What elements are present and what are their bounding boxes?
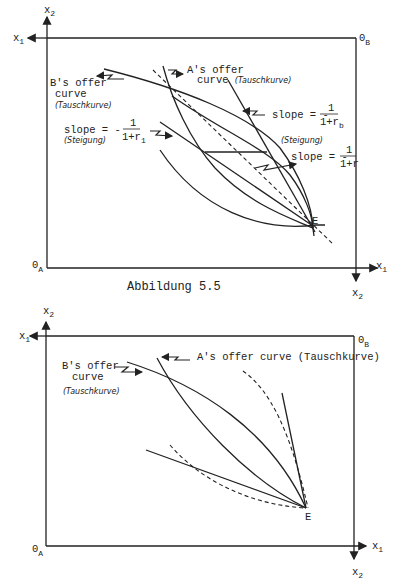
point-E: E: [312, 215, 318, 227]
origin-A-label: 0A: [32, 259, 43, 274]
figure-1-edgeworth-box: x2 x1 0B 0A x1 x2 B's offer curve (Tausc…: [13, 4, 387, 301]
slope-rb-num: 1: [328, 102, 334, 114]
x2-label-bottom-right: x2: [352, 566, 363, 580]
a-offer-curve: [157, 358, 306, 508]
dashed-offer-curve-upper: [243, 371, 308, 508]
a-offer-arrow: [162, 357, 190, 360]
b-offer-label-2: curve: [55, 88, 87, 100]
x1-label-bottom-right: x1: [376, 260, 387, 274]
figure-caption: Abbildung 5.5: [127, 280, 221, 294]
steigung-label-1: (Steigung): [64, 136, 106, 145]
svg-text:curve (Tauschkurve): curve (Tauschkurve): [197, 74, 291, 86]
slope-rb-den: 1+rb: [320, 116, 344, 130]
x2-label-bottom-right: x2: [352, 287, 363, 301]
slope-r-num: 1: [346, 144, 352, 156]
b-offer-label-de: (Tauschkurve): [55, 101, 112, 110]
slope-r1-prefix: slope = -: [64, 124, 121, 136]
slope-r1-num: 1: [130, 117, 136, 129]
steep-line: [282, 393, 306, 508]
a-offer-label-2: curve: [197, 74, 235, 86]
x1-label-bottom-right: x1: [372, 540, 383, 554]
x1-label-top-left: x1: [13, 32, 24, 46]
b-offer-label-de: (Tauschkurve): [63, 387, 120, 396]
slope-r-den: 1+r: [340, 158, 359, 170]
origin-A-label: 0A: [32, 543, 43, 558]
slope-r1-den: 1+r1: [122, 131, 146, 145]
origin-B-label: 0B: [358, 334, 369, 349]
dashed-offer-curve-lower: [170, 445, 306, 508]
a-offer-label: A's offer curve (Tauschkurve): [197, 351, 380, 363]
point-E: E: [305, 511, 311, 523]
slope-r1-arrow: [150, 131, 172, 136]
x1-label-top-left: x1: [19, 330, 30, 344]
b-offer-label-2: curve: [72, 371, 104, 383]
slope-r-arrow: [255, 164, 296, 170]
x2-label-top: x2: [44, 4, 55, 18]
figure-2-edgeworth-box: x2 x1 0B 0A x1 x2 B's offer curve (Tausc…: [19, 305, 383, 580]
steigung-label-2: (Steigung): [281, 136, 323, 145]
a-offer-arrow: [168, 70, 183, 74]
b-offer-curve: [127, 362, 306, 508]
lower-line: [146, 450, 306, 508]
origin-B-label: 0B: [359, 32, 370, 47]
x2-label-top: x2: [43, 305, 54, 319]
